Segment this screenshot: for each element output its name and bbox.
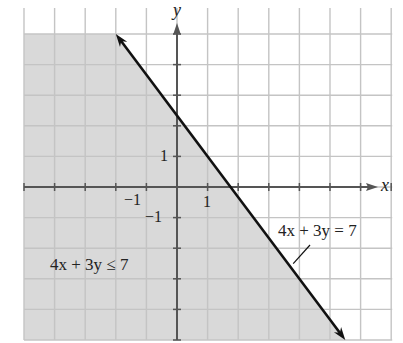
x-axis-label: x [381,175,389,196]
tick-label-y-1: 1 [160,147,168,165]
graph-canvas [0,0,403,343]
tick-label-x-neg1: −1 [124,191,141,209]
tick-label-x-1: 1 [203,193,211,211]
tick-label-y-neg1: −1 [145,208,162,226]
inequality-label: 4x + 3y ≤ 7 [50,255,128,275]
y-axis-label: y [173,0,181,21]
equation-label: 4x + 3y = 7 [278,221,357,241]
